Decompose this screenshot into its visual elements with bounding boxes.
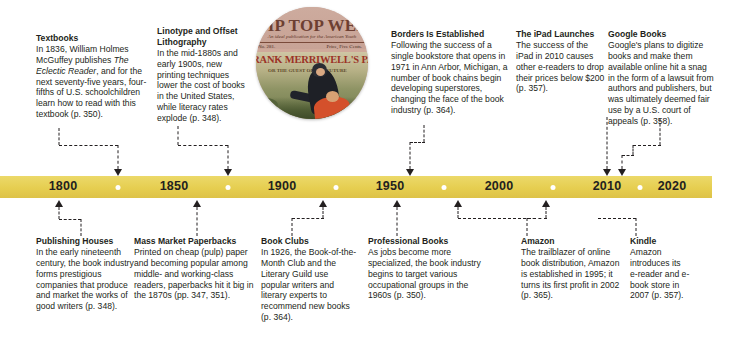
- connector-publishing-v2: [81, 219, 82, 236]
- magazine-price: Price, Five Cents.: [326, 44, 362, 49]
- marker-arrow-borders: [406, 169, 414, 176]
- magazine-story-subtitle: OR THE GUEST OF THE FUTURE: [268, 68, 347, 74]
- timeline-year-2020: 2020: [658, 179, 687, 193]
- connector-publishing-h: [59, 219, 81, 220]
- connector-kindle-h1: [458, 218, 536, 219]
- magazine-masthead-title: TIP TOP WEEKLY: [256, 16, 368, 36]
- marker-arrow-google: [618, 169, 626, 176]
- cover-art-figure-face: [316, 68, 325, 76]
- marker-arrow-linotype: [224, 169, 232, 176]
- connector-borders-h: [410, 142, 425, 143]
- connector-google-v1: [660, 119, 661, 145]
- callout-body: The trailblazer of online book distribut…: [521, 247, 621, 301]
- connector-google-h1: [633, 145, 661, 146]
- callout-heading: The iPad Launches: [516, 29, 605, 40]
- connector-textbooks-h: [59, 145, 118, 146]
- marker-arrow-mass-market: [193, 200, 201, 207]
- marker-arrow-kindle: [454, 200, 462, 207]
- connector-google-v2: [633, 145, 634, 155]
- cover-art-second-figure-head: [326, 91, 339, 102]
- marker-arrow-amazon: [542, 200, 550, 207]
- callout-heading: Professional Books: [368, 236, 483, 247]
- connector-amazon-v1: [546, 207, 547, 218]
- callout-book-clubs: Book Clubs In 1926, the Book-of-the-Mont…: [261, 236, 359, 323]
- connector-google-h2: [622, 155, 634, 156]
- callout-body: As jobs become more specialized, the boo…: [368, 247, 483, 301]
- timeline-year-1900: 1900: [268, 179, 297, 193]
- callout-body: In 1836, William Holmes McGuffey publish…: [36, 44, 154, 120]
- connector-professional-v: [397, 207, 398, 236]
- callout-amazon: Amazon The trailblazer of online book di…: [521, 236, 621, 301]
- callout-heading: Google Books: [608, 29, 714, 40]
- callout-body: Following the success of a single bookst…: [391, 40, 515, 116]
- callout-body: In the early nineteenth century, the boo…: [36, 247, 134, 312]
- magazine-masthead-subtitle: An ideal publication for the American Yo…: [256, 34, 368, 39]
- callout-heading: Publishing Houses: [36, 236, 134, 247]
- connector-google-v3: [622, 155, 623, 169]
- connector-linotype-v2: [228, 145, 229, 169]
- connector-textbooks-v1: [59, 128, 60, 145]
- callout-borders-is-established: Borders Is Established Following the suc…: [391, 29, 515, 116]
- callout-heading: Borders Is Established: [391, 29, 515, 40]
- magazine-story-title: FRANK MERRIWELL'S PARTY: [256, 54, 368, 65]
- callout-heading: Book Clubs: [261, 236, 359, 247]
- timeline-year-2000: 2000: [485, 179, 514, 193]
- timeline-year-1800: 1800: [49, 179, 78, 193]
- connector-massmarket-v: [197, 207, 198, 236]
- marker-arrow-textbooks: [114, 169, 122, 176]
- callout-kindle: Kindle Amazon introduces its e-reader an…: [630, 236, 690, 301]
- marker-arrow-ipad: [603, 169, 611, 176]
- connector-kindle-h2: [598, 218, 636, 219]
- callout-publishing-houses: Publishing Houses In the early nineteent…: [36, 236, 134, 312]
- connector-textbooks-v2: [118, 145, 119, 169]
- callout-body: Printed on cheap (pulp) paper and becomi…: [134, 247, 260, 301]
- timeline-tick-dot: [116, 185, 121, 190]
- callout-mass-market-paperbacks: Mass Market Paperbacks Printed on cheap …: [134, 236, 260, 301]
- callout-google-books: Google Books Google's plans to digitize …: [608, 29, 714, 127]
- connector-kindle-v1: [636, 218, 637, 236]
- callout-heading: Mass Market Paperbacks: [134, 236, 260, 247]
- timeline-tick-dot: [334, 185, 339, 190]
- connector-linotype-v1: [178, 126, 179, 145]
- callout-heading: Linotype and Offset Lithography: [157, 26, 249, 48]
- callout-heading: Textbooks: [36, 33, 154, 44]
- callout-body: Amazon introduces its e-reader and e-boo…: [630, 247, 690, 301]
- callout-the-ipad-launches: The iPad Launches The success of the iPa…: [516, 29, 605, 94]
- callout-textbooks: Textbooks In 1836, William Holmes McGuff…: [36, 33, 154, 120]
- connector-publishing-v1: [59, 207, 60, 219]
- timeline-year-1950: 1950: [376, 179, 405, 193]
- callout-body: The success of the iPad in 2010 causes o…: [516, 40, 605, 94]
- timeline-tick-dot: [551, 185, 556, 190]
- callout-professional-books: Professional Books As jobs become more s…: [368, 236, 483, 301]
- timeline-year-1850: 1850: [160, 179, 189, 193]
- connector-bookclubs-h: [292, 218, 324, 219]
- callout-body: In 1926, the Book-of-the-Month Club and …: [261, 247, 359, 323]
- marker-arrow-professional-books: [393, 200, 401, 207]
- connector-linotype-h: [178, 145, 228, 146]
- magazine-issue-number: No. 281.: [258, 44, 275, 49]
- timeline-tick-dot: [638, 185, 643, 190]
- connector-amazon-v2: [527, 218, 528, 236]
- timeline-tick-dot: [226, 185, 231, 190]
- callout-heading: Kindle: [630, 236, 690, 247]
- connector-borders-v2: [410, 142, 411, 169]
- marker-arrow-book-clubs: [319, 200, 327, 207]
- timeline-year-2010: 2010: [593, 179, 622, 193]
- timeline-infographic: Textbooks In 1836, William Holmes McGuff…: [0, 0, 745, 343]
- marker-arrow-publishing-houses: [55, 200, 63, 207]
- callout-heading: Amazon: [521, 236, 621, 247]
- magazine-rule: [256, 42, 368, 43]
- connector-kindle-v0: [458, 207, 459, 218]
- connector-ipad-v: [607, 117, 608, 169]
- timeline-tick-dot: [442, 185, 447, 190]
- callout-body: Google's plans to digitize books and mak…: [608, 40, 714, 126]
- tip-top-weekly-cover-image: TIP TOP WEEKLY An ideal publication for …: [256, 7, 368, 119]
- callout-linotype-offset-lithography: Linotype and Offset Lithography In the m…: [157, 26, 249, 124]
- connector-bookclubs-v1: [323, 207, 324, 218]
- connector-borders-v1: [424, 125, 425, 142]
- callout-body: In the mid-1880s and early 1900s, new pr…: [157, 48, 249, 124]
- connector-bookclubs-v2: [292, 218, 293, 236]
